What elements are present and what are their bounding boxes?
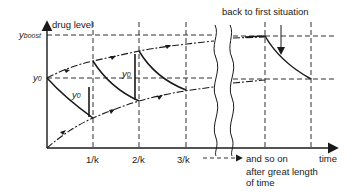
tick-2-over-k: 2/k <box>132 155 145 165</box>
tick-1-over-k: 1/k <box>86 155 99 165</box>
dose-label-2: y0 <box>122 69 131 79</box>
y-boost-label: yboost <box>19 30 41 40</box>
continuation-note-1: after great length <box>246 167 318 177</box>
tick-3-over-k: 3/k <box>177 155 190 165</box>
continuation-text: and so on <box>246 154 288 164</box>
arrow-icon <box>64 69 70 73</box>
dose-label-1: y0 <box>72 90 81 100</box>
y-axis-label: drug level <box>52 20 93 30</box>
axes <box>47 23 336 148</box>
dose-jumps <box>89 54 135 117</box>
continuation-note-2: of time <box>246 178 275 188</box>
arrow-icon <box>110 56 116 60</box>
top-annotation: back to first situation <box>222 7 309 17</box>
decay-curves <box>47 36 311 118</box>
y0-label: y0 <box>33 73 42 83</box>
time-markers <box>93 22 311 148</box>
x-axis-label: time <box>319 154 337 164</box>
axis-break <box>214 25 234 156</box>
reference-lines <box>47 35 335 79</box>
arrow-icon <box>109 109 115 114</box>
